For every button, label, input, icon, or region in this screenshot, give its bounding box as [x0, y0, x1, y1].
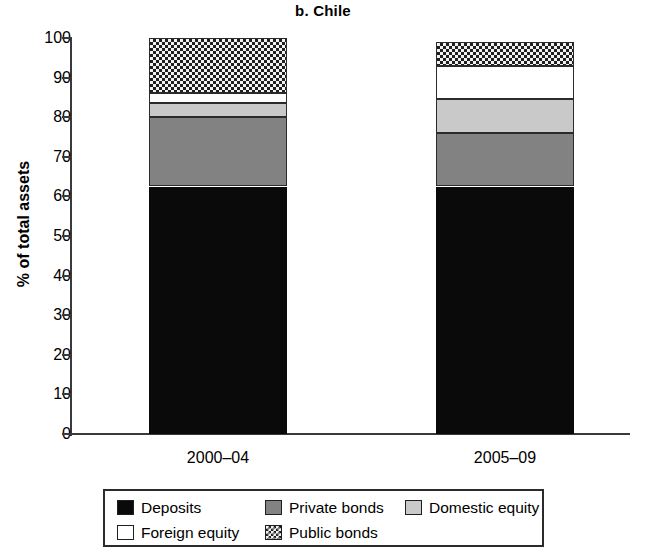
bar-segment-domestic — [149, 103, 287, 117]
y-tick-mark — [62, 314, 71, 316]
legend-row: Foreign equityPublic bonds — [105, 520, 546, 545]
legend-item-foreign[interactable]: Foreign equity — [117, 520, 239, 545]
bar-segment-deposits — [149, 187, 287, 435]
bar-segment-deposits — [436, 187, 574, 435]
legend-row: DepositsPrivate bondsDomestic equity — [105, 495, 546, 520]
y-tick-mark — [62, 116, 71, 118]
plot-area: 0102030405060708090100 % of total assets… — [0, 0, 646, 554]
y-tick-mark — [62, 77, 71, 79]
legend-swatch-deposits-icon — [117, 500, 134, 515]
y-tick-50: 50 — [0, 228, 71, 244]
y-tick-mark — [62, 235, 71, 237]
legend-item-public[interactable]: Public bonds — [265, 520, 378, 545]
y-tick-60: 60 — [0, 188, 71, 204]
y-tick-80: 80 — [0, 109, 71, 125]
bar-segment-private — [149, 117, 287, 186]
y-tick-0: 0 — [0, 426, 71, 442]
y-tick-100: 100 — [0, 30, 71, 46]
y-tick-10: 10 — [0, 386, 71, 402]
bar-segment-public — [436, 42, 574, 66]
legend-item-private[interactable]: Private bonds — [265, 495, 384, 520]
x-axis-label-2: 2005–09 — [405, 449, 605, 467]
legend-swatch-foreign-icon — [117, 525, 134, 540]
legend-label: Foreign equity — [141, 525, 239, 541]
x-axis-label-1: 2000–04 — [118, 449, 318, 467]
legend-label: Deposits — [141, 500, 201, 516]
y-tick-70: 70 — [0, 149, 71, 165]
y-tick-mark — [62, 275, 71, 277]
legend-label: Private bonds — [289, 500, 384, 516]
y-tick-mark — [62, 433, 71, 435]
bar-segment-private — [436, 133, 574, 186]
y-tick-90: 90 — [0, 70, 71, 86]
y-tick-30: 30 — [0, 307, 71, 323]
legend-label: Domestic equity — [429, 500, 539, 516]
y-tick-20: 20 — [0, 347, 71, 363]
bar-segment-domestic — [436, 99, 574, 133]
bar-segment-public — [149, 38, 287, 93]
legend-swatch-domestic-icon — [405, 500, 422, 515]
chart-legend: DepositsPrivate bondsDomestic equityFore… — [103, 489, 544, 547]
y-tick-mark — [62, 393, 71, 395]
y-tick-mark — [62, 156, 71, 158]
legend-swatch-public-icon — [265, 525, 282, 540]
bar-segment-foreign — [149, 93, 287, 103]
legend-item-domestic[interactable]: Domestic equity — [405, 495, 539, 520]
y-tick-mark — [62, 354, 71, 356]
legend-item-deposits[interactable]: Deposits — [117, 495, 201, 520]
legend-label: Public bonds — [289, 525, 378, 541]
y-tick-40: 40 — [0, 268, 71, 284]
y-axis-title: % of total assets — [15, 134, 33, 314]
legend-swatch-private-icon — [265, 500, 282, 515]
bar-segment-foreign — [436, 66, 574, 100]
bar-2005–09 — [436, 0, 574, 554]
bar-2000–04 — [149, 0, 287, 554]
y-tick-mark — [62, 37, 71, 39]
y-tick-mark — [62, 195, 71, 197]
chart-figure: b. Chile 0102030405060708090100 % of tot… — [0, 0, 646, 554]
